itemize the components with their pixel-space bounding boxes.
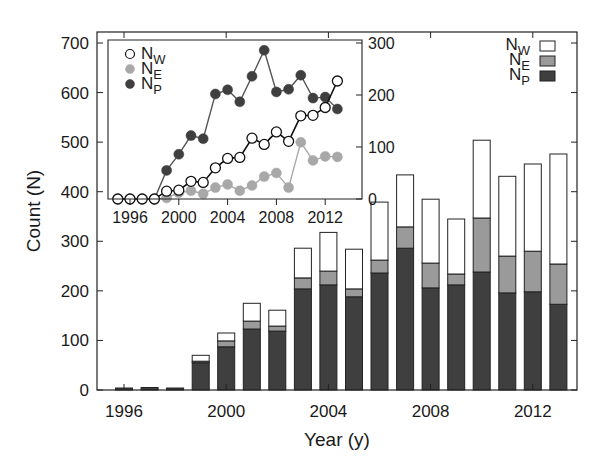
point-N_W [198, 177, 208, 187]
bar-segment-P [371, 273, 388, 390]
point-N_E [271, 168, 281, 178]
point-N_E [210, 183, 220, 193]
bar-segment-P [243, 329, 260, 390]
bar-segment-E [397, 227, 414, 248]
bar-segment-P [422, 288, 439, 390]
bar-segment-P [397, 248, 414, 390]
bar-segment-E [422, 263, 439, 288]
bar-segment-P [320, 285, 337, 390]
bar-segment-P [524, 292, 541, 390]
bar-segment-W [218, 333, 235, 341]
inset-x-tick-label: 2004 [210, 209, 246, 226]
bar-segment-P [448, 285, 465, 390]
x-tick-label: 2000 [207, 402, 245, 421]
inset-legend-marker-N_W [126, 50, 135, 59]
bar-segment-W [524, 164, 541, 251]
bar-2009 [448, 219, 465, 390]
bar-segment-E [346, 289, 363, 297]
point-N_W [284, 136, 294, 146]
bar-2003 [294, 248, 311, 390]
y-axis-title: Count (N) [23, 170, 44, 252]
point-N_W [162, 186, 172, 196]
point-N_P [223, 85, 233, 95]
inset-y-tick-label: 0 [368, 191, 377, 208]
inset-y-tick-label: 200 [368, 87, 395, 104]
inset-line-chart: 0100200300 19962000200420082012 NWNENP [108, 35, 395, 226]
point-N_E [259, 172, 269, 182]
bar-2010 [473, 140, 490, 390]
legend-swatch-N_W [540, 41, 555, 51]
bar-segment-P [499, 293, 516, 390]
point-N_W [235, 152, 245, 162]
legend-swatch-N_P [540, 71, 555, 81]
x-axis-title: Year (y) [304, 429, 370, 450]
point-N_W [332, 76, 342, 86]
point-N_E [308, 156, 318, 166]
bar-segment-P [550, 304, 567, 390]
point-N_E [296, 137, 306, 147]
point-N_W [247, 133, 257, 143]
bar-1999 [192, 355, 209, 390]
bar-2002 [269, 310, 286, 390]
bar-segment-E [243, 321, 260, 329]
bar-segment-W [192, 355, 209, 361]
inset-y-tick-label: 100 [368, 139, 395, 156]
bar-segment-E [218, 341, 235, 347]
bar-2008 [422, 199, 439, 390]
bar-2005 [346, 249, 363, 390]
bar-segment-P [346, 297, 363, 390]
bar-segment-P [473, 272, 490, 390]
y-tick-label: 0 [80, 381, 89, 400]
bar-segment-E [524, 251, 541, 292]
point-N_W [320, 103, 330, 113]
main-legend: NWNENP [505, 35, 555, 88]
y-tick-label: 600 [61, 84, 89, 103]
point-N_E [186, 186, 196, 196]
bar-segment-W [243, 303, 260, 321]
point-N_P [174, 149, 184, 159]
point-N_E [223, 179, 233, 189]
bar-segment-P [192, 363, 209, 390]
point-N_P [259, 45, 269, 55]
x-tick-label: 2008 [412, 402, 450, 421]
point-N_P [162, 165, 172, 175]
bar-segment-E [473, 218, 490, 272]
y-tick-label: 100 [61, 331, 89, 350]
bar-segment-W [269, 310, 286, 326]
point-N_W [223, 153, 233, 163]
bar-segment-W [371, 202, 388, 260]
point-N_P [247, 71, 257, 81]
bar-segment-W [294, 248, 311, 278]
y-tick-label: 300 [61, 232, 89, 251]
bar-segment-W [346, 249, 363, 289]
bar-segment-P [218, 347, 235, 390]
bar-segment-E [550, 264, 567, 304]
bar-segment-W [397, 175, 414, 227]
point-N_W [210, 163, 220, 173]
y-tick-label: 400 [61, 183, 89, 202]
point-N_W [174, 185, 184, 195]
y-tick-label: 200 [61, 282, 89, 301]
point-N_P [198, 134, 208, 144]
point-N_P [271, 87, 281, 97]
point-N_P [296, 70, 306, 80]
bar-2013 [550, 154, 567, 390]
y-tick-label: 700 [61, 34, 89, 53]
inset-x-tick-label: 2000 [161, 209, 197, 226]
point-N_E [235, 186, 245, 196]
bar-2004 [320, 232, 337, 390]
point-N_P [186, 131, 196, 141]
bar-2011 [499, 176, 516, 390]
point-N_W [259, 139, 269, 149]
point-N_P [332, 104, 342, 114]
x-tick-label: 2012 [514, 402, 552, 421]
y-tick-label: 500 [61, 133, 89, 152]
point-N_W [186, 176, 196, 186]
bar-segment-E [499, 256, 516, 293]
point-N_E [320, 151, 330, 161]
point-N_W [271, 127, 281, 137]
bar-segment-W [448, 219, 465, 274]
inset-legend-marker-N_E [126, 65, 135, 74]
bar-segment-E [371, 260, 388, 273]
point-N_W [308, 110, 318, 120]
